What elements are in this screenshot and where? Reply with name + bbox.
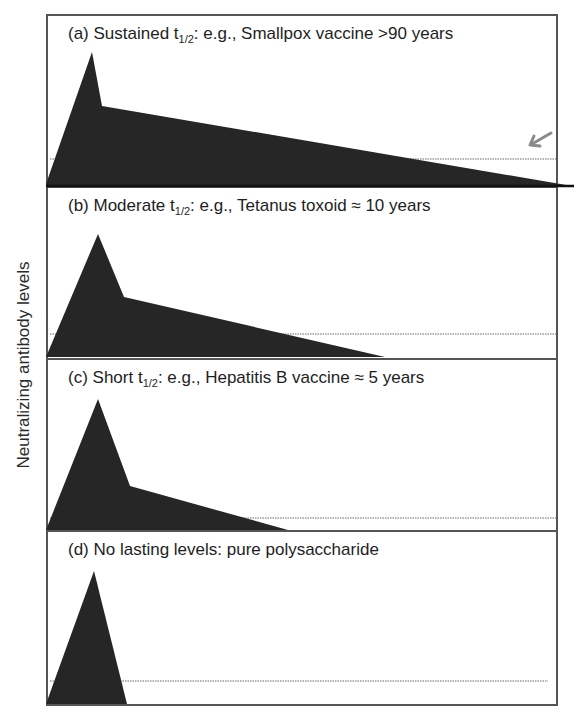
- arrow-down-left-icon: [530, 133, 551, 146]
- curve-d: [46, 571, 127, 704]
- curve-c: [46, 399, 288, 530]
- curve-a: [46, 52, 572, 186]
- curve-b: [46, 234, 385, 357]
- antibody-curves: [0, 0, 582, 728]
